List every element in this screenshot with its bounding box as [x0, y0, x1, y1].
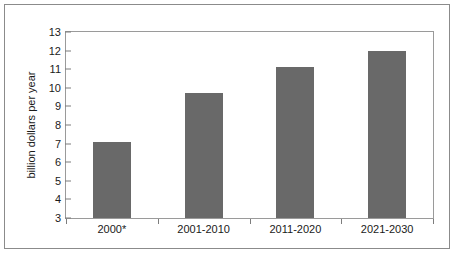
y-axis-tick-label: 11 — [50, 63, 61, 75]
y-axis-title: billion dollars per year — [23, 45, 39, 205]
y-axis-tick-mark — [65, 180, 71, 181]
y-axis-tick-label: 7 — [55, 138, 61, 150]
x-axis-tick-label: 2011-2020 — [269, 223, 321, 235]
y-axis-tick-mark — [65, 143, 71, 144]
y-axis-tick-mark — [65, 87, 71, 88]
plot-inner-surface — [66, 32, 433, 218]
y-axis-tick-label: 5 — [55, 175, 61, 187]
bar — [185, 93, 223, 218]
y-axis-tick-mark — [65, 32, 71, 33]
chart-screenshot: billion dollars per year 131211109876543… — [0, 0, 456, 257]
bar — [368, 51, 406, 218]
x-axis-tick-label: 2021-2030 — [361, 223, 414, 235]
bar — [276, 67, 314, 218]
y-axis-tick-label: 3 — [55, 212, 61, 224]
x-axis-tick-mark — [66, 219, 67, 224]
y-axis-tick-labels: 131211109876543 — [40, 31, 64, 219]
x-axis-tick-mark — [250, 219, 251, 224]
y-axis-tick-label: 13 — [49, 26, 61, 38]
bar-chart-figure: billion dollars per year 131211109876543… — [0, 0, 456, 257]
y-axis-tick-label: 6 — [55, 156, 61, 168]
x-axis-tick-mark — [158, 219, 159, 224]
y-axis-tick-mark — [65, 50, 71, 51]
y-axis-tick-mark — [65, 162, 71, 163]
y-axis-tick-mark — [65, 199, 71, 200]
y-axis-tick-label: 8 — [55, 119, 61, 131]
x-axis-tick-labels: 2000*2001-20102011-20202021-2030 — [65, 221, 434, 241]
y-axis-tick-mark — [65, 106, 71, 107]
y-axis-tick-label: 9 — [55, 100, 61, 112]
x-axis-tick-label: 2000* — [97, 223, 126, 235]
y-axis-tick-label: 4 — [55, 193, 61, 205]
y-axis-tick-mark — [65, 69, 71, 70]
y-axis-tick-mark — [65, 125, 71, 126]
x-axis-tick-mark — [341, 219, 342, 224]
x-axis-tick-mark — [433, 219, 434, 224]
plot-area — [65, 31, 434, 219]
y-axis-tick-label: 12 — [49, 45, 61, 57]
y-axis-tick-label: 10 — [49, 82, 61, 94]
bar — [93, 142, 131, 218]
x-axis-tick-label: 2001-2010 — [177, 223, 230, 235]
